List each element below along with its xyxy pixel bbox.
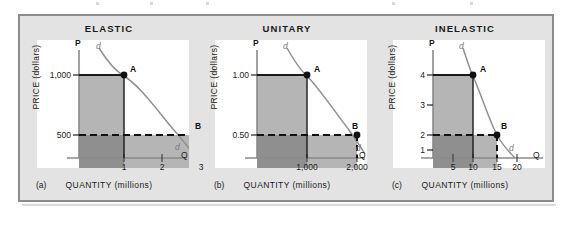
- x-axis-title-inelastic: QUANTITY (millions): [376, 180, 554, 190]
- point-a-label: A: [130, 64, 136, 74]
- xtick-label-2: 15: [490, 162, 504, 172]
- point-a-label: A: [314, 64, 320, 74]
- figure-drop-shadow: [22, 204, 556, 206]
- axis-label-q: Q: [359, 150, 366, 160]
- ytick-label-0: 4: [393, 70, 425, 80]
- axis-label-q: Q: [181, 150, 188, 160]
- curve-label-top: d: [96, 41, 101, 51]
- curve-label-top: d: [459, 41, 464, 51]
- point-a-marker: [304, 72, 311, 79]
- rect-upper: [433, 75, 473, 135]
- y-axis-title-unitary: PRICE (dollars): [209, 31, 219, 123]
- point-b-marker: [494, 132, 501, 139]
- x-axis-title-unitary: QUANTITY (millions): [198, 180, 376, 190]
- plot-elastic: P d d A B 1,000 500 1 2 3 Q: [37, 40, 189, 168]
- plot-unitary: P d d A B 1.00 0.50 1,000 2,000 Q: [215, 40, 367, 168]
- page-top-artifact: [0, 0, 572, 9]
- ytick-label-1: 500: [37, 130, 71, 140]
- point-b-label: B: [352, 121, 358, 131]
- panel-unitary: UNITARY P d d: [198, 16, 376, 200]
- point-b-marker: [354, 132, 361, 139]
- point-b-label: B: [501, 121, 507, 131]
- x-axis-title-elastic: QUANTITY (millions): [20, 180, 198, 190]
- axis-label-p: P: [429, 38, 435, 48]
- rect-upper: [79, 75, 124, 135]
- axis-label-q: Q: [533, 150, 540, 160]
- chart-svg-unitary: [215, 40, 367, 168]
- ytick-label-1: 3: [393, 100, 425, 110]
- point-a-marker: [470, 72, 477, 79]
- panel-title-unitary: UNITARY: [198, 23, 376, 34]
- ytick-label-3: 1: [393, 145, 425, 155]
- xtick-label-1: 2: [155, 162, 169, 172]
- xtick-label-0: 5: [446, 162, 460, 172]
- elasticity-figure: ELASTIC: [18, 14, 554, 202]
- y-axis-title-elastic: PRICE (dollars): [31, 31, 41, 123]
- rect-upper: [257, 75, 307, 135]
- point-a-label: A: [480, 64, 486, 74]
- ytick-label-1: 0.50: [215, 130, 249, 140]
- xtick-label-1: 10: [466, 162, 480, 172]
- curve-label-end: d: [175, 142, 180, 152]
- axis-label-p: P: [75, 38, 81, 48]
- chart-svg-elastic: [37, 40, 189, 168]
- curve-label-end: d: [509, 143, 514, 153]
- ytick-label-2: 2: [393, 130, 425, 140]
- panel-elastic: ELASTIC: [20, 16, 198, 200]
- panel-title-inelastic: INELASTIC: [376, 23, 554, 34]
- ytick-label-0: 1.00: [215, 70, 249, 80]
- curve-label-top: d: [283, 41, 288, 51]
- xtick-label-0: 1: [117, 162, 131, 172]
- point-a-marker: [121, 72, 128, 79]
- y-axis-title-inelastic: PRICE (dollars): [387, 31, 397, 123]
- xtick-label-1: 2,000: [339, 162, 375, 172]
- xtick-label-3: 20: [510, 162, 524, 172]
- axis-label-p: P: [253, 38, 259, 48]
- panel-inelastic: INELASTIC: [376, 16, 554, 200]
- ytick-label-0: 1,000: [37, 70, 71, 80]
- xtick-label-0: 1,000: [289, 162, 325, 172]
- plot-inelastic: P d d A B 4 3 2 1 5 10 15 20 Q: [393, 40, 545, 168]
- panel-title-elastic: ELASTIC: [20, 23, 198, 34]
